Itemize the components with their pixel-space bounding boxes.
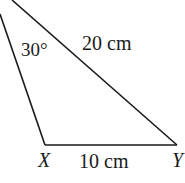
triangle-diagram: 30° 20 cm X 10 cm Y [0, 0, 185, 183]
vertex-y-label: Y [172, 150, 183, 170]
base-label: 10 cm [79, 151, 128, 171]
vertex-x-label: X [38, 150, 50, 170]
hypotenuse-label: 20 cm [82, 33, 131, 53]
side-left [0, 14, 45, 145]
angle-label: 30° [21, 40, 48, 59]
